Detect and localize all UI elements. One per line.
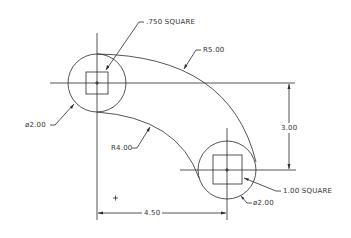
technical-drawing: .750 SQUARE R5.00 ø2.00 R4.00 3.00 1.00 … xyxy=(0,0,351,238)
right-square-label: 1.00 SQUARE xyxy=(283,187,332,195)
leader-right-square xyxy=(244,178,281,191)
vertical-dim-label: 3.00 xyxy=(281,124,297,132)
outer-radius-label: R5.00 xyxy=(203,46,224,54)
right-diameter-label: ø2.00 xyxy=(253,199,274,207)
left-square-label: .750 SQUARE xyxy=(146,18,195,26)
right-square xyxy=(213,155,242,184)
arrow-vdim-top xyxy=(288,84,291,89)
left-diameter-label: ø2.00 xyxy=(25,121,46,129)
arrow-right-square xyxy=(244,178,249,181)
arrow-hdim-right xyxy=(221,212,226,215)
horizontal-dim-label: 4.50 xyxy=(144,209,160,217)
arrow-vdim-bottom xyxy=(288,164,291,169)
drawing-geometry xyxy=(0,0,351,238)
arrow-hdim-left xyxy=(98,212,103,215)
inner-radius-label: R4.00 xyxy=(111,144,132,152)
leader-left-square xyxy=(106,22,144,70)
